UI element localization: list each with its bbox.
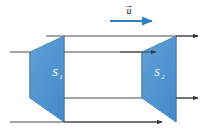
figure-container: S 1 S 2 u → [0, 0, 207, 132]
velocity-vector-group: u → [110, 0, 152, 21]
surface-s1-label: S [52, 66, 58, 78]
stream-tube-diagram: S 1 S 2 u → [0, 0, 207, 132]
surface-s2-subscript: 2 [161, 73, 165, 81]
foreground-line-overlays [64, 36, 198, 122]
surface-s2-label: S [154, 66, 160, 78]
velocity-vector-accent-icon: → [125, 0, 134, 10]
surface-s2-face [142, 36, 176, 122]
surface-s1-subscript: 1 [59, 73, 63, 81]
surface-s1-group: S 1 [30, 36, 64, 122]
surface-s2-group: S 2 [142, 36, 176, 122]
